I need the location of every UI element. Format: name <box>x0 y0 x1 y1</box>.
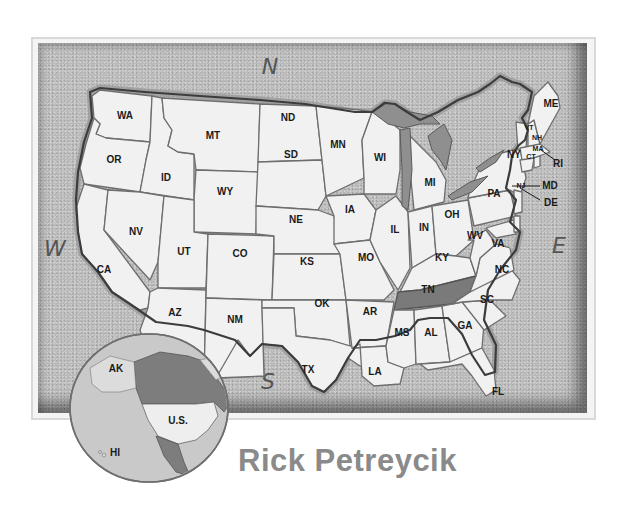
label-ny: NY <box>507 149 521 160</box>
label-pa: PA <box>487 188 500 199</box>
state-ct[interactable] <box>520 158 534 172</box>
label-ut: UT <box>177 246 190 257</box>
label-de: DE <box>544 197 558 208</box>
compass-east: E <box>552 233 566 258</box>
label-nj: NJ <box>517 182 526 189</box>
label-wa: WA <box>117 110 133 121</box>
compass-west: W <box>44 236 67 261</box>
label-ak: AK <box>109 363 124 374</box>
label-al: AL <box>424 327 437 338</box>
label-ks: KS <box>300 256 314 267</box>
leader-de <box>520 188 540 200</box>
label-ca: CA <box>97 264 111 275</box>
label-az: AZ <box>168 307 181 318</box>
label-co: CO <box>233 248 248 259</box>
globe-hawaii-1 <box>99 451 102 454</box>
label-ms: MS <box>395 327 410 338</box>
label-nc: NC <box>495 264 509 275</box>
lake-michigan <box>400 128 412 210</box>
label-wy: WY <box>217 186 233 197</box>
label-nh: NH <box>532 134 542 141</box>
label-me: ME <box>544 98 559 109</box>
label-ct: CT <box>526 153 536 160</box>
label-tx: TX <box>302 364 315 375</box>
label-mi: MI <box>424 177 435 188</box>
state-sd[interactable] <box>256 160 326 210</box>
label-mn: MN <box>330 139 346 150</box>
label-il: IL <box>391 224 400 235</box>
label-md: MD <box>542 180 558 191</box>
globe-hawaii-2 <box>102 453 106 457</box>
compass-north: N <box>262 54 278 79</box>
label-ok: OK <box>315 298 331 309</box>
us-map: N S E W <box>0 0 623 507</box>
state-co[interactable] <box>206 234 274 300</box>
label-mt: MT <box>206 130 220 141</box>
label-la: LA <box>368 366 381 377</box>
label-ne: NE <box>289 214 303 225</box>
state-wy[interactable] <box>194 170 258 234</box>
label-in: IN <box>419 222 429 233</box>
label-ky: KY <box>435 252 449 263</box>
label-nm: NM <box>227 314 243 325</box>
label-ia: IA <box>345 204 355 215</box>
label-wv: WV <box>467 230 483 241</box>
label-nd: ND <box>281 112 295 123</box>
label-tn: TN <box>421 284 434 295</box>
label-va: VA <box>491 238 504 249</box>
label-vt: VT <box>525 124 535 131</box>
label-wi: WI <box>374 152 386 163</box>
label-fl: FL <box>492 386 504 397</box>
label-us: U.S. <box>168 415 188 426</box>
label-or: OR <box>107 154 123 165</box>
label-sd: SD <box>284 149 298 160</box>
label-sc: SC <box>480 294 494 305</box>
label-ga: GA <box>458 320 473 331</box>
state-ia[interactable] <box>326 194 376 244</box>
label-hi: HI <box>110 447 120 458</box>
author-credit: Rick Petreycik <box>238 443 457 479</box>
label-id: ID <box>161 172 171 183</box>
label-mo: MO <box>358 252 374 263</box>
label-nv: NV <box>129 226 143 237</box>
label-oh: OH <box>445 209 460 220</box>
label-ar: AR <box>363 306 378 317</box>
